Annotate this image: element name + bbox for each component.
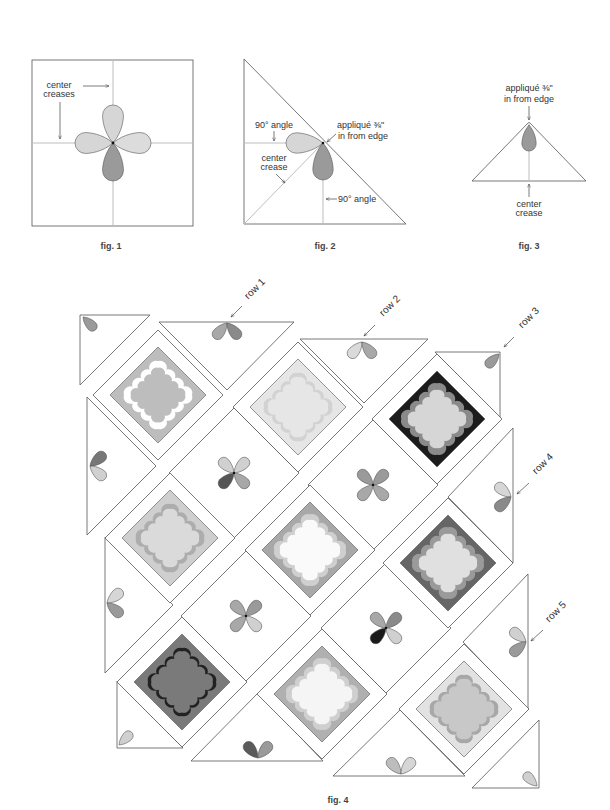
row-label-4: row 4 (517, 451, 555, 494)
row-label-text: row 1 (242, 276, 267, 301)
figure-1: center creases fig. 1 (32, 60, 193, 251)
row-label-text: row 2 (377, 293, 402, 318)
flower-center (233, 472, 235, 474)
arrow-down-left-icon (504, 337, 514, 347)
row-label-text: row 4 (530, 451, 555, 476)
label-applique-line1: appliqué ⅜" (505, 83, 552, 93)
row-label-1: row 1 (231, 276, 267, 317)
label-applique-line1: appliqué ⅜" (337, 120, 384, 130)
applique-point (322, 142, 325, 145)
figure-caption: fig. 3 (518, 241, 539, 251)
center-point (112, 142, 115, 145)
label-center-crease-line2: crease (260, 162, 287, 172)
flower-center (385, 627, 387, 629)
figure-caption: fig. 4 (327, 795, 348, 805)
arrow-down-left-icon (231, 306, 242, 317)
label-applique-line2: in from edge (504, 94, 554, 104)
label-applique-line2: in from edge (338, 131, 388, 141)
figure-4-quilt-layout: row 1 row 2 row 3 row 4 row 5 fig. 4 (79, 276, 568, 805)
label-center-creases-line2: creases (43, 89, 75, 99)
arrow-down-left-icon (531, 630, 543, 641)
figure-3: appliqué ⅜" in from edge center crease f… (472, 83, 586, 251)
label-90-degree-angle-top: 90° angle (255, 120, 293, 130)
row-label-text: row 3 (516, 305, 541, 330)
flower-center (245, 615, 247, 617)
row-label-5: row 5 (531, 599, 568, 641)
arrow-down-left-icon (327, 134, 336, 142)
flower-center (372, 484, 374, 486)
row-label-text: row 5 (543, 599, 568, 624)
label-center-crease-line2: crease (515, 208, 542, 218)
label-90-degree-angle-bottom: 90° angle (338, 194, 376, 204)
figure-2: 90° angle appliqué ⅜" in from edge cente… (244, 59, 406, 251)
arrow-down-left-icon (517, 483, 529, 494)
row-label-2: row 2 (364, 293, 402, 336)
row-label-3: row 3 (504, 305, 541, 347)
arrow-down-left-icon (364, 325, 375, 336)
figure-caption: fig. 1 (100, 241, 121, 251)
figure-caption: fig. 2 (314, 241, 335, 251)
diagram-canvas: center creases fig. 1 90° angle appliqué… (0, 0, 610, 810)
